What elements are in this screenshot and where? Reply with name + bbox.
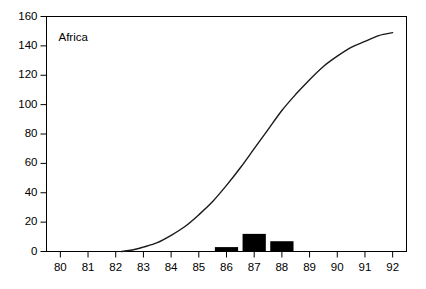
x-tick-label: 92 (373, 262, 413, 274)
y-tick-label: 120 (18, 69, 37, 81)
y-tick-label: 40 (25, 187, 38, 199)
y-axis-ticks (41, 17, 47, 252)
chart-container: Africa 020406080100120140160 80818283848… (0, 0, 426, 289)
bar (215, 247, 238, 251)
y-tick-label: 0 (31, 246, 37, 258)
y-tick-label: 100 (18, 99, 37, 111)
series-title-label: Africa (59, 31, 88, 43)
bar (243, 234, 266, 252)
y-tick-label: 60 (25, 157, 38, 169)
bar (270, 241, 293, 251)
y-tick-label: 140 (18, 40, 37, 52)
plot-canvas (0, 0, 426, 289)
y-tick-label: 160 (18, 11, 37, 23)
x-axis-ticks (60, 252, 392, 258)
y-tick-label: 80 (25, 128, 38, 140)
plot-frame (47, 17, 407, 252)
y-tick-label: 20 (25, 216, 38, 228)
